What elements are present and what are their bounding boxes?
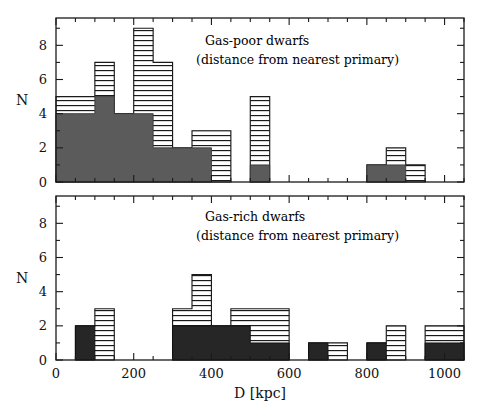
- annotation-top-line1: Gas-poor dwarfs: [205, 33, 309, 48]
- y-tick-label: 6: [39, 250, 47, 265]
- figure-container: 02468N 0246802004006008001000ND [kpc] Ga…: [0, 0, 488, 408]
- x-tick-label: 0: [52, 366, 60, 381]
- annotation-bottom-line1: Gas-rich dwarfs: [205, 209, 305, 224]
- panel-gas-rich: 0246802004006008001000ND [kpc]: [16, 196, 464, 401]
- y-tick-label: 8: [39, 38, 47, 53]
- y-tick-label: 0: [39, 353, 47, 368]
- x-tick-label: 400: [199, 366, 224, 381]
- y-tick-label: 4: [39, 106, 47, 121]
- y-tick-label: 8: [39, 216, 47, 231]
- annotation-top-line2: (distance from nearest primary): [196, 52, 399, 67]
- x-tick-label: 800: [354, 366, 379, 381]
- x-tick-label: 200: [121, 366, 146, 381]
- y-axis-label: N: [16, 92, 28, 108]
- y-tick-label: 2: [39, 318, 47, 333]
- x-tick-label: 1000: [428, 366, 461, 381]
- y-tick-label: 6: [39, 72, 47, 87]
- annotation-bottom-line2: (distance from nearest primary): [196, 228, 399, 243]
- y-tick-label: 4: [39, 284, 47, 299]
- x-tick-label: 600: [277, 366, 302, 381]
- y-axis-label: N: [16, 270, 28, 286]
- y-tick-label: 2: [39, 140, 47, 155]
- x-axis-label: D [kpc]: [234, 385, 286, 401]
- y-tick-label: 0: [39, 175, 47, 190]
